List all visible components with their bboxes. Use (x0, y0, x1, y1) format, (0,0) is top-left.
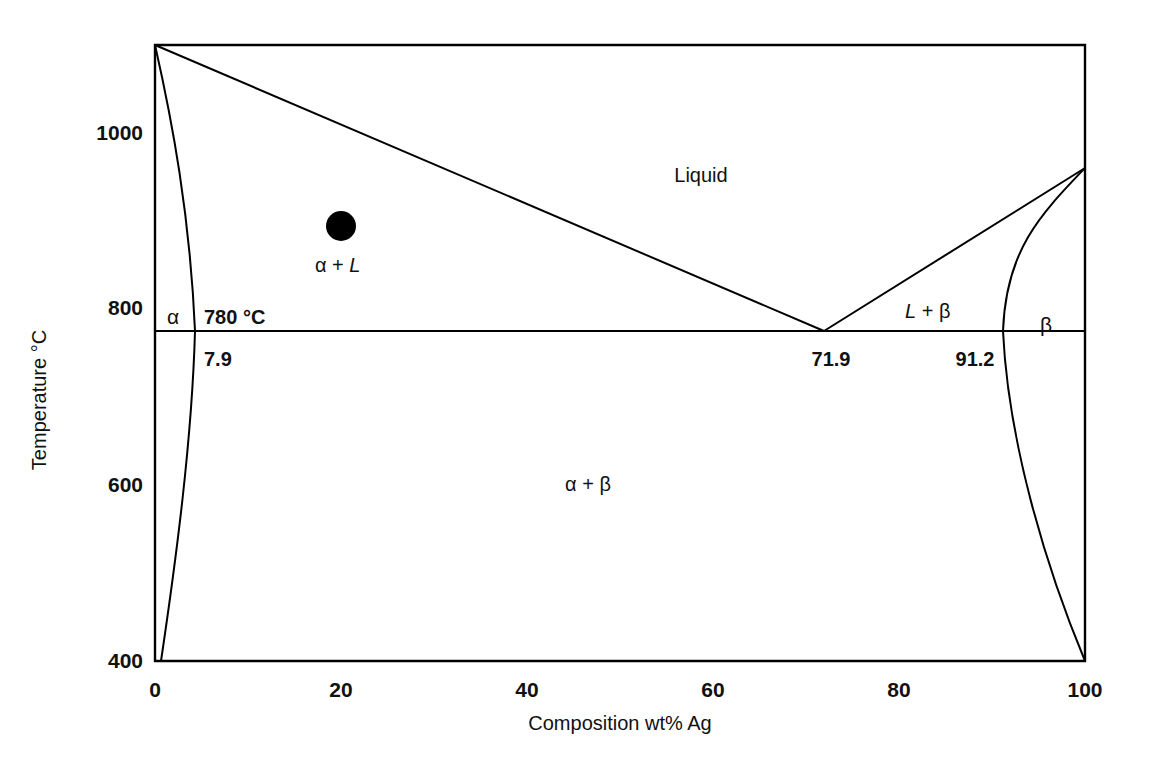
x-tick-100: 100 (1067, 678, 1102, 701)
x-tick-60: 60 (701, 678, 724, 701)
region-label-liquid-plus-beta: L + β (905, 300, 950, 322)
y-axis-ticks: 1000 800 600 400 (96, 121, 143, 672)
x-axis-title: Composition wt% Ag (528, 712, 711, 734)
liquid-plus-beta-prefix: L (905, 300, 916, 322)
liquidus-alpha-side (155, 45, 824, 331)
alpha-solvus (161, 331, 195, 661)
annotation-beta-max-solubility: 91.2 (956, 348, 995, 370)
phase-boundaries (155, 45, 1085, 661)
liquid-plus-beta-suffix: + β (916, 300, 950, 322)
y-tick-800: 800 (108, 296, 143, 319)
svg-text:L + β: L + β (905, 300, 950, 322)
alpha-plus-liquid-suffix: L (349, 254, 360, 276)
annotation-alpha-max-solubility: 7.9 (204, 348, 232, 370)
y-tick-1000: 1000 (96, 121, 143, 144)
beta-solvus (1003, 331, 1085, 661)
x-tick-20: 20 (329, 678, 352, 701)
region-label-beta: β (1040, 313, 1052, 336)
svg-text:α + L: α + L (315, 254, 360, 276)
phase-diagram-figure: 1000 800 600 400 0 20 40 60 80 100 Compo… (0, 0, 1156, 758)
y-axis-title: Temperature °C (28, 330, 50, 470)
region-label-alpha: α (167, 305, 179, 328)
y-tick-400: 400 (108, 649, 143, 672)
x-tick-40: 40 (515, 678, 538, 701)
x-tick-0: 0 (149, 678, 161, 701)
liquidus-beta-side (824, 168, 1085, 331)
alloy-composition-marker-dot (326, 211, 356, 241)
alpha-plus-liquid-prefix: α + (315, 254, 349, 276)
x-axis-ticks: 0 20 40 60 80 100 (149, 678, 1102, 701)
chart-canvas: 1000 800 600 400 0 20 40 60 80 100 Compo… (0, 0, 1156, 758)
region-label-liquid: Liquid (674, 164, 727, 186)
alpha-solidus (155, 45, 195, 331)
plot-frame (155, 45, 1085, 661)
annotation-eutectic-temperature: 780 °C (204, 306, 265, 328)
x-tick-80: 80 (887, 678, 910, 701)
y-tick-600: 600 (108, 473, 143, 496)
region-label-alpha-plus-liquid: α + L (315, 254, 360, 276)
region-label-alpha-plus-beta: α + β (565, 473, 611, 495)
annotation-eutectic-composition: 71.9 (812, 348, 851, 370)
